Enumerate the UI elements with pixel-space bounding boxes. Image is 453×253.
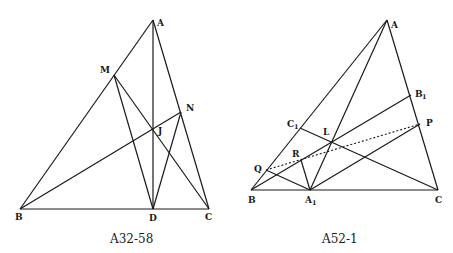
point-label-R: R xyxy=(292,149,300,159)
point-label-L: L xyxy=(323,127,330,137)
segment-RA1 xyxy=(301,160,310,190)
segment-AA1 xyxy=(310,20,387,190)
dotted-segment-QP xyxy=(266,124,420,170)
figure-caption: A52-1 xyxy=(321,232,358,246)
figure-a32-58: A M N J B D C A32-58 xyxy=(15,18,212,246)
svg-text:1: 1 xyxy=(312,199,317,207)
point-label-A1: A 1 xyxy=(304,195,317,207)
point-label-B1: B 1 xyxy=(415,89,427,101)
point-label-C1: C 1 xyxy=(287,119,299,131)
segment-MC xyxy=(114,75,209,209)
segment-MD xyxy=(114,75,153,209)
segment-QA1 xyxy=(266,170,310,190)
point-label-C: C xyxy=(205,212,212,222)
point-label-D: D xyxy=(149,213,157,223)
point-label-N: N xyxy=(186,103,194,113)
svg-text:1: 1 xyxy=(294,123,299,131)
point-label-Q: Q xyxy=(254,164,262,174)
point-label-B: B xyxy=(248,195,256,205)
svg-text:1: 1 xyxy=(422,93,427,101)
geometry-figures: A M N J B D C A32-58 A B 1 P C 1 L R Q B xyxy=(0,0,453,253)
segment-AB xyxy=(20,20,153,209)
figure-a52-1: A B 1 P C 1 L R Q B A 1 C A52-1 xyxy=(248,20,442,246)
point-label-M: M xyxy=(100,65,110,75)
point-label-J: J xyxy=(157,126,162,136)
figure-caption: A32-58 xyxy=(109,232,153,246)
point-label-A: A xyxy=(156,18,165,28)
point-label-A: A xyxy=(390,20,399,30)
point-label-C: C xyxy=(435,195,442,205)
point-label-B: B xyxy=(15,212,23,222)
point-label-P: P xyxy=(426,118,433,128)
segment-CC1 xyxy=(300,128,438,190)
segment-AB xyxy=(251,20,387,190)
